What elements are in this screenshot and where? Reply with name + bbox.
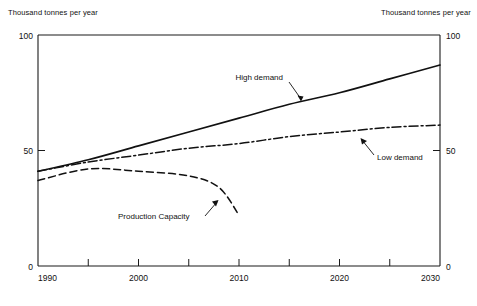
y2-tick-label-100: 100 <box>446 31 460 41</box>
series-line-production-capacity <box>38 169 239 216</box>
annotation-production-capacity-label: Production Capacity <box>118 212 190 221</box>
line-chart-plot: 100 50 0 100 50 0 1990 2000 2010 2020 20… <box>0 0 477 306</box>
annotation-production-capacity-arrowhead <box>212 200 219 207</box>
annotation-low-demand-arrowhead <box>361 138 368 145</box>
chart-container: Thousand tonnes per year Thousand tonnes… <box>0 0 477 306</box>
x-tick-label-1990: 1990 <box>38 273 57 283</box>
y2-tick-label-0: 0 <box>446 262 451 272</box>
x-tick-label-2030: 2030 <box>421 273 440 283</box>
x-tick-label-2010: 2010 <box>230 273 249 283</box>
annotation-high-demand-label: High demand <box>235 73 283 82</box>
y-tick-label-0: 0 <box>28 262 33 272</box>
x-tick-label-2020: 2020 <box>330 273 349 283</box>
y-tick-label-50: 50 <box>24 146 34 156</box>
series-line-low-demand <box>38 125 440 171</box>
annotation-low-demand-label: Low demand <box>377 153 423 162</box>
y2-tick-label-50: 50 <box>446 146 456 156</box>
y-tick-label-100: 100 <box>19 31 33 41</box>
x-tick-label-2000: 2000 <box>129 273 148 283</box>
